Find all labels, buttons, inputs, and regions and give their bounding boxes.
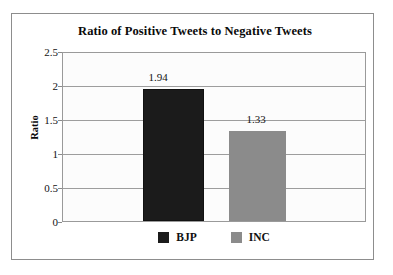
y-tick-label-2: 2 (18, 81, 58, 92)
y-tick-label-1: 1 (18, 149, 58, 160)
y-tick-label-0.5: 0.5 (18, 183, 58, 194)
legend-item-inc[interactable]: INC (231, 232, 270, 244)
y-tick-label-2.5: 2.5 (18, 47, 58, 58)
bar-value-label-bjp: 1.94 (128, 72, 188, 83)
gridline-2 (63, 86, 365, 87)
chart-title: Ratio of Positive Tweets to Negative Twe… (30, 24, 360, 39)
bar-inc[interactable] (229, 131, 286, 221)
y-tick-label-1.5: 1.5 (18, 115, 58, 126)
legend-label-inc: INC (249, 232, 270, 244)
bar-value-label-inc: 1.33 (226, 114, 286, 125)
plot-area (62, 52, 366, 222)
legend-item-bjp[interactable]: BJP (158, 232, 196, 244)
legend-swatch-bjp-icon (158, 232, 169, 243)
chart-figure: Ratio of Positive Tweets to Negative Twe… (0, 0, 393, 275)
y-tick-label-0: 0 (18, 217, 58, 228)
bar-bjp[interactable] (143, 89, 204, 221)
chart-legend: BJP INC (62, 232, 366, 244)
gridline-1.5 (63, 120, 365, 121)
gridline-1 (63, 154, 365, 155)
legend-swatch-inc-icon (231, 232, 242, 243)
legend-label-bjp: BJP (176, 232, 196, 244)
y-tick-mark (58, 222, 62, 223)
gridline-0.5 (63, 188, 365, 189)
